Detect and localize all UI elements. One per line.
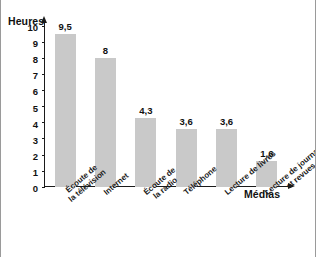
bar[interactable]: 9,5 [55, 34, 76, 187]
y-axis-tick: 5 [33, 98, 45, 116]
y-axis-tick: 1 [33, 162, 45, 180]
plot-area: 0123456789109,584,33,63,61,6 [45, 26, 287, 187]
y-axis-tick-mark [42, 106, 45, 107]
y-axis-tick-label: 9 [33, 38, 38, 49]
bar[interactable]: 3,6 [216, 129, 237, 187]
y-axis-tick-mark [42, 171, 45, 172]
y-axis-tick-label: 7 [33, 70, 38, 81]
y-axis-tick-label: 4 [33, 119, 38, 130]
chart-figure: Heures Médias 0123456789109,584,33,63,61… [0, 0, 316, 257]
y-axis-tick: 2 [33, 146, 45, 164]
y-axis-tick-label: 2 [33, 151, 38, 162]
bar-value-label: 9,5 [59, 21, 72, 32]
y-axis-tick-mark [42, 90, 45, 91]
y-axis-tick-label: 3 [33, 135, 38, 146]
y-axis-tick-mark [42, 74, 45, 75]
bar-value-label: 8 [103, 45, 108, 56]
bar[interactable]: 4,3 [135, 118, 156, 187]
bar-value-label: 3,6 [180, 116, 193, 127]
y-axis-tick-mark [42, 58, 45, 59]
y-axis-tick-mark [42, 187, 45, 188]
y-axis-tick: 7 [33, 65, 45, 83]
y-axis-tick: 6 [33, 81, 45, 99]
y-axis-tick-mark [42, 155, 45, 156]
y-axis-tick-mark [42, 26, 45, 27]
y-axis-tick-label: 6 [33, 86, 38, 97]
y-axis-tick: 4 [33, 114, 45, 132]
y-axis-tick-label: 10 [27, 22, 38, 33]
y-axis-tick-mark [42, 42, 45, 43]
y-axis-tick: 10 [27, 17, 45, 35]
y-axis-tick-label: 5 [33, 103, 38, 114]
y-axis-tick-label: 1 [33, 167, 38, 178]
y-axis-tick-label: 0 [33, 183, 38, 194]
y-axis-tick-label: 8 [33, 54, 38, 65]
y-axis-tick: 8 [33, 49, 45, 67]
y-axis-tick: 9 [33, 33, 45, 51]
bar-value-label: 3,6 [220, 116, 233, 127]
y-axis-tick-mark [42, 122, 45, 123]
y-axis-tick: 0 [33, 178, 45, 196]
y-axis-tick: 3 [33, 130, 45, 148]
y-axis-tick-mark [42, 138, 45, 139]
bar-value-label: 4,3 [139, 105, 152, 116]
